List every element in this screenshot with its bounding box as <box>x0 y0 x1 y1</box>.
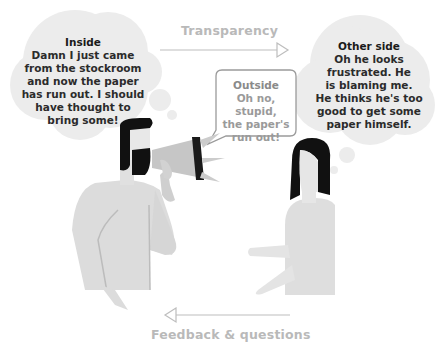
inside-line: Damn I just came <box>18 49 148 62</box>
other-side-line: paper himself. <box>307 118 431 131</box>
transparency-label: Transparency <box>181 23 278 38</box>
outside-title: Outside <box>216 79 296 92</box>
outside-line: Oh no, stupid, <box>216 92 296 118</box>
transparency-arrow <box>160 43 288 57</box>
outside-line: the paper's <box>216 118 296 131</box>
inside-bubble-text: Inside Damn I just came from the stockro… <box>18 36 148 127</box>
other-side-title: Other side <box>307 40 431 53</box>
other-side-line: He thinks he's too <box>307 92 431 105</box>
inside-title: Inside <box>18 36 148 49</box>
other-side-line: good to get some <box>307 105 431 118</box>
other-side-bubble-text: Other side Oh he looks frustrated. He is… <box>307 40 431 131</box>
other-side-line: is blaming me. <box>307 79 431 92</box>
feedback-label: Feedback & questions <box>151 327 311 342</box>
man-figure <box>72 118 225 310</box>
inside-line: and now the paper <box>18 75 148 88</box>
woman-figure <box>248 138 335 295</box>
inside-line: have thought to <box>18 101 148 114</box>
other-side-line: Oh he looks <box>307 53 431 66</box>
feedback-arrow <box>165 308 290 322</box>
other-side-line: frustrated. He <box>307 66 431 79</box>
inside-line: from the stockroom <box>18 62 148 75</box>
inside-line: bring some! <box>18 114 148 127</box>
inside-line: has run out. I should <box>18 88 148 101</box>
outside-line: run out! <box>216 131 296 144</box>
outside-bubble-text: Outside Oh no, stupid, the paper's run o… <box>216 79 296 144</box>
